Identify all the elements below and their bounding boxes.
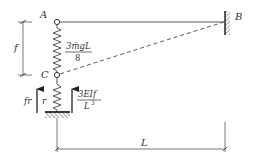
svg-text:L: L <box>83 101 90 111</box>
upper-spring-force: 3m̄gL 8 <box>65 41 92 63</box>
label-f: f <box>13 42 20 53</box>
svg-text:3EIf: 3EIf <box>78 89 98 99</box>
dimension-f <box>18 20 32 77</box>
label-b: B <box>234 11 242 22</box>
fixed-support-b <box>225 11 230 35</box>
svg-text:3: 3 <box>91 99 95 106</box>
lower-spring <box>53 78 61 112</box>
lower-force-fraction: 3EIf L 3 <box>77 89 101 111</box>
label-l: L <box>140 137 148 148</box>
upper-spring <box>53 25 61 72</box>
node-a <box>54 19 59 24</box>
label-fr: fr <box>23 96 32 106</box>
svg-text:8: 8 <box>75 53 80 63</box>
label-r: r <box>42 96 47 106</box>
label-c: C <box>41 69 49 80</box>
ground-support <box>45 112 70 118</box>
svg-text:3m̄gL: 3m̄gL <box>66 41 91 51</box>
label-a: A <box>39 9 47 20</box>
structure-diagram: A B C f L 3m̄gL 8 fr r 3EIf L 3 <box>0 0 254 167</box>
node-c <box>54 72 59 77</box>
